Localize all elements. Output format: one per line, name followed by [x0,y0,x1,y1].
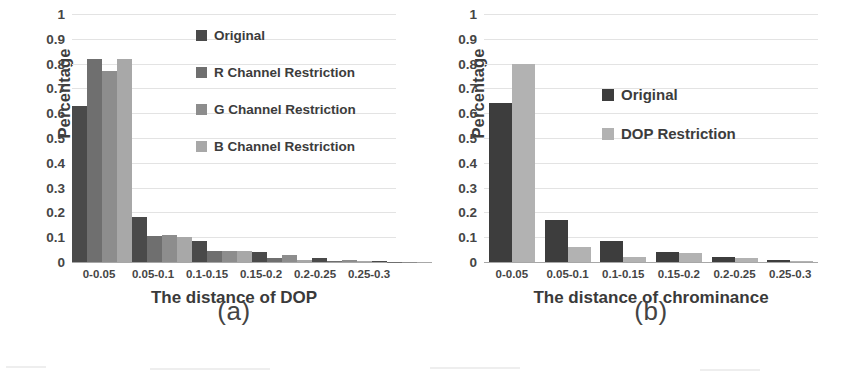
x-axis-tick-labels-b: 0-0.050.05-0.10.1-0.150.15-0.20.2-0.250.… [484,268,818,280]
legend-swatch-icon [196,104,207,115]
bar [568,247,591,262]
legend-item: Original [602,86,736,103]
chart-panel-b: Percentage 10.90.80.70.60.50.40.30.20.10… [422,0,844,375]
legend-item: R Channel Restriction [196,65,356,80]
bar [342,260,357,262]
y-axis-tick-label: 0.5 [458,131,477,146]
legend-label: R Channel Restriction [214,65,355,80]
x-axis-tick-label: 0.2-0.25 [288,268,342,280]
y-axis-tick-label: 0.4 [458,155,477,170]
y-axis-tick-label: 0.1 [46,230,65,245]
x-axis-tick-label: 0.1-0.15 [180,268,234,280]
x-axis-tick-labels-a: 0-0.050.05-0.10.1-0.150.15-0.20.2-0.250.… [72,268,396,280]
bar [623,257,646,262]
legend-label: G Channel Restriction [214,102,356,117]
legend-swatch-icon [196,141,207,152]
bar [767,260,790,262]
bar [357,261,372,262]
legend-label: Original [214,28,265,43]
bar [192,241,207,262]
bar [735,258,758,262]
bar-cluster [484,14,540,262]
bar [656,252,679,262]
bar [252,252,267,262]
bar [267,258,282,262]
bar [282,255,297,262]
legend-b: OriginalDOP Restriction [602,86,736,142]
y-axis-tick-label: 0 [469,255,477,270]
x-axis-tick-label: 0.25-0.3 [762,268,818,280]
legend-label: B Channel Restriction [214,139,355,154]
x-axis-tick-label: 0-0.05 [484,268,540,280]
y-axis-tick-label: 0.7 [458,81,477,96]
y-axis-tick-label: 0.8 [458,56,477,71]
bar [162,235,177,262]
legend-swatch-icon [602,128,614,140]
scan-artifact [150,368,270,370]
legend-swatch-icon [602,89,614,101]
bar [102,71,117,262]
bar [222,251,237,262]
y-axis-tick-label: 1 [57,7,65,22]
bar [790,261,813,262]
panel-caption-a: (a) [0,296,422,327]
scan-artifact [430,367,520,369]
bar [87,59,102,262]
y-axis-tick-label: 0.6 [458,106,477,121]
bar-cluster [762,14,818,262]
legend-item: B Channel Restriction [196,139,356,154]
x-axis-tick-label: 0.25-0.3 [342,268,396,280]
bar [177,237,192,262]
bar [600,241,623,262]
legend-label: Original [621,86,678,103]
y-axis-tick-label: 0.9 [46,31,65,46]
x-axis-tick-label: 0.2-0.25 [707,268,763,280]
legend-swatch-icon [196,30,207,41]
bar [679,253,702,262]
y-axis-tick-label: 0.6 [46,106,65,121]
y-axis-tick-label: 0.4 [46,155,65,170]
figure-two-panel-bar-charts: Percentage 10.90.80.70.60.50.40.30.20.10… [0,0,844,375]
y-axis-tick-label: 0.8 [46,56,65,71]
bar [372,261,387,262]
panel-caption-b: (b) [422,296,844,327]
y-axis-tick-label: 0.3 [46,180,65,195]
bar [132,217,147,262]
bar [489,103,512,262]
y-axis-tick-label: 0.7 [46,81,65,96]
bar [297,260,312,262]
x-axis-tick-label: 0.05-0.1 [540,268,596,280]
legend-label: DOP Restriction [621,125,736,142]
y-axis-tick-label: 0.2 [46,205,65,220]
y-axis-tick-label: 0.1 [458,230,477,245]
scan-artifact [6,366,46,368]
scan-artifact [700,369,760,371]
bar [237,251,252,262]
x-axis-tick-label: 0-0.05 [72,268,126,280]
legend-a: OriginalR Channel RestrictionG Channel R… [196,28,356,154]
bar [327,261,342,262]
legend-swatch-icon [196,67,207,78]
chart-panel-a: Percentage 10.90.80.70.60.50.40.30.20.10… [0,0,422,375]
bar [207,251,222,262]
x-axis-tick-label: 0.15-0.2 [651,268,707,280]
bar [72,106,87,262]
y-axis-tick-label: 1 [469,7,477,22]
x-axis-tick-label: 0.15-0.2 [234,268,288,280]
bar-cluster [132,14,192,262]
bar [312,258,327,262]
x-axis-tick-label: 0.05-0.1 [126,268,180,280]
legend-item: Original [196,28,356,43]
legend-item: G Channel Restriction [196,102,356,117]
legend-item: DOP Restriction [602,125,736,142]
y-axis-tick-label: 0.2 [458,205,477,220]
y-axis-tick-label: 0.5 [46,131,65,146]
y-axis-tick-label: 0 [57,255,65,270]
y-axis-tick-label: 0.9 [458,31,477,46]
axis-baseline [484,262,818,263]
bar [512,64,535,262]
x-axis-tick-label: 0.1-0.15 [595,268,651,280]
bar-cluster [540,14,596,262]
bar [117,59,132,262]
bar [147,236,162,262]
